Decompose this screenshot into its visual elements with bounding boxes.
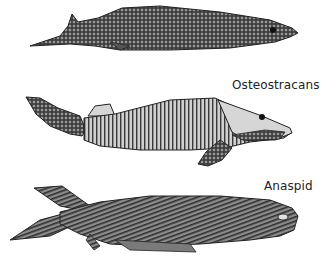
middle-fish [26, 97, 292, 166]
eye-icon [259, 114, 265, 120]
eye-icon [270, 27, 276, 33]
bottom-fish [10, 186, 298, 252]
fossil-fish-figure: Osteostracans Anaspid [0, 0, 331, 264]
figure-illustration [0, 0, 331, 264]
anaspid-label: Anaspid [264, 179, 313, 193]
eye-icon [278, 214, 288, 220]
top-fish [30, 6, 298, 50]
osteostracans-label: Osteostracans [232, 78, 319, 92]
